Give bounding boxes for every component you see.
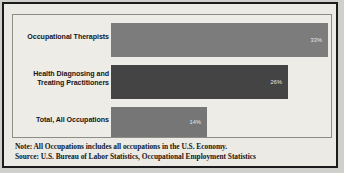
source-text: Source: U.S. Bureau of Labor Statistics,… [15,152,325,162]
plot-area: Occupational Therapists 33% Health Diagn… [12,14,332,138]
bar-value-label: 26% [271,79,283,85]
bar: 33% [111,23,328,57]
bar: 14% [111,107,207,137]
bar: 26% [111,65,288,99]
category-label: Total, All Occupations [17,116,109,125]
category-label-line1: Occupational Therapists [17,33,109,42]
bar-row: Occupational Therapists 33% [13,23,331,57]
bar-value-label: 14% [190,119,202,125]
bar-value-label: 33% [311,37,323,43]
note-text: Note: All Occupations includes all occup… [15,142,325,152]
chart-footnotes: Note: All Occupations includes all occup… [15,142,325,161]
category-label: Occupational Therapists [17,33,109,42]
category-label-line1: Health Diagnosing and [17,70,109,79]
category-label-line1: Total, All Occupations [17,116,109,125]
category-label-line2: Treating Practitioners [17,79,109,88]
chart-figure: Occupational Therapists 33% Health Diagn… [2,2,338,168]
bar-row: Total, All Occupations 14% [13,107,331,137]
category-label: Health Diagnosing and Treating Practitio… [17,70,109,88]
bar-row: Health Diagnosing and Treating Practitio… [13,65,331,99]
